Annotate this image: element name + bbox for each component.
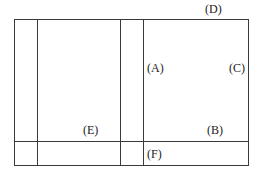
layout-diagram: (D) (A) (C) (E) (B) (F) xyxy=(0,0,260,175)
label-e: (E) xyxy=(83,124,98,136)
label-b: (B) xyxy=(207,124,223,136)
outer-frame xyxy=(14,19,249,166)
vertical-divider-1 xyxy=(37,19,38,166)
label-a: (A) xyxy=(147,62,164,74)
vertical-divider-3 xyxy=(143,19,144,166)
horizontal-divider xyxy=(14,141,249,142)
label-f: (F) xyxy=(147,148,162,160)
label-d: (D) xyxy=(205,3,222,15)
label-c: (C) xyxy=(229,62,245,74)
vertical-divider-2 xyxy=(120,19,121,166)
